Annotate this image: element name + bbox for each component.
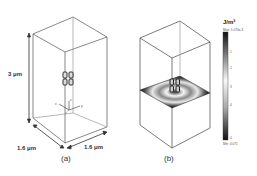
coordinate-axes-icon xyxy=(59,101,80,114)
caption-a: (a) xyxy=(61,154,71,163)
depth-label: 1.6 μm xyxy=(17,145,36,151)
colorbar-min: Min: 0.071 xyxy=(223,142,238,146)
caption-b: (b) xyxy=(164,154,174,163)
colorbar-tick: 4 xyxy=(230,103,232,107)
panel-b-field-map: J/m³ Max: 5.074e-3 1 2 3 4 0 Min: 0.071 … xyxy=(128,0,257,176)
nanostructure-pair xyxy=(63,72,73,85)
box-with-field-plane xyxy=(128,0,257,176)
axis-label-y: y xyxy=(81,104,83,108)
height-label: 3 μm xyxy=(8,71,22,77)
colorbar-tick: 3 xyxy=(230,85,232,89)
colorbar-tick: 2 xyxy=(230,66,232,70)
colorbar xyxy=(223,32,228,140)
width-label: 1.6 μm xyxy=(84,144,103,150)
field-plane xyxy=(140,76,210,108)
colorbar-unit: J/m³ xyxy=(223,19,235,25)
panel-a-geometry: z x y 3 μm 1.6 μm 1.6 μm (a) xyxy=(0,0,128,176)
colorbar-tick: 1 xyxy=(230,50,232,54)
colorbar-tick: 0 xyxy=(230,136,232,140)
axis-label-x: x xyxy=(55,102,57,106)
axis-label-z: z xyxy=(70,98,72,102)
colorbar-max: Max: 5.074e-3 xyxy=(223,28,243,32)
